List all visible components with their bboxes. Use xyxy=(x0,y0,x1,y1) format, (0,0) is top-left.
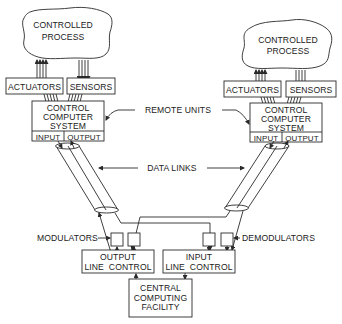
right-input-label: INPUT xyxy=(254,134,279,143)
demodulator-box-1 xyxy=(203,233,215,246)
output-line-control-line2: LINE CONTROL xyxy=(84,262,151,272)
right-computer-line3: SYSTEM xyxy=(268,123,304,133)
central-line3: FACILITY xyxy=(141,302,179,312)
system-diagram: CONTROLLED PROCESS ACTUATORS SENSORS xyxy=(0,0,342,324)
right-process-line1: CONTROLLED xyxy=(258,35,318,45)
demodulators-label: DEMODULATORS xyxy=(242,233,315,243)
left-input-label: INPUT xyxy=(36,133,61,142)
output-line-control-line1: OUTPUT xyxy=(100,252,137,262)
left-remote-unit: CONTROLLED PROCESS ACTUATORS SENSORS xyxy=(6,7,115,141)
left-sensor-arrows xyxy=(79,60,88,80)
modulator-box-2 xyxy=(128,233,140,246)
right-process-line2: PROCESS xyxy=(267,46,310,56)
right-sensors-label: SENSORS xyxy=(290,85,333,95)
right-remote-unit: CONTROLLED PROCESS ACTUATORS SENSORS xyxy=(224,19,336,142)
left-computer-line3: SYSTEM xyxy=(50,121,86,131)
right-actuators-label: ACTUATORS xyxy=(226,85,279,95)
demodulator-box-2 xyxy=(221,233,233,246)
right-output-label: OUTPUT xyxy=(285,134,319,143)
left-output-label: OUTPUT xyxy=(67,133,101,142)
left-actuators-label: ACTUATORS xyxy=(8,82,61,92)
left-sensors-label: SENSORS xyxy=(70,82,113,92)
left-process-line2: PROCESS xyxy=(42,32,85,42)
left-data-link-pipe xyxy=(56,143,119,213)
input-line-control-line1: INPUT xyxy=(186,252,213,262)
input-line-control-line2: LINE CONTROL xyxy=(165,262,232,272)
remote-units-label: REMOTE UNITS xyxy=(145,105,211,115)
left-actuator-arrows xyxy=(37,60,46,80)
left-process-line1: CONTROLLED xyxy=(33,20,93,30)
remote-units-callout: REMOTE UNITS xyxy=(106,105,249,124)
modulators-label: MODULATORS xyxy=(37,233,98,243)
right-data-link-pipe xyxy=(225,143,290,211)
modulator-box-1 xyxy=(111,233,123,246)
data-links-callout: DATA LINKS xyxy=(99,163,244,173)
data-links-label: DATA LINKS xyxy=(147,163,197,173)
central-line2: COMPUTING xyxy=(134,293,188,303)
central-line1: CENTRAL xyxy=(140,283,181,293)
